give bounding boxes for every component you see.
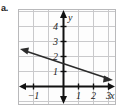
y-tick-label-3: 3 [52,36,58,47]
x-tick-label-1: 1 [76,90,81,101]
graph-figure: a. [0,0,117,110]
x-axis-label: x [109,90,115,101]
problem-letter-label: a. [1,4,8,13]
y-tick-label-1: 1 [53,66,58,77]
x-axis-arrow-left [19,83,26,90]
x-axis [19,83,115,90]
coordinate-plane: 4 3 2 1 −1 1 2 3 y x [18,9,116,105]
y-tick-label-4: 4 [53,21,58,32]
x-tick-label-neg1: −1 [28,90,40,101]
y-axis [60,10,67,104]
y-tick-label-2: 2 [53,51,58,62]
y-axis-arrow-down [60,96,67,104]
plotted-line-arrow-left [20,48,29,55]
y-axis-label: y [67,12,73,23]
plotted-line [24,51,108,79]
x-tick-label-2: 2 [91,90,96,101]
